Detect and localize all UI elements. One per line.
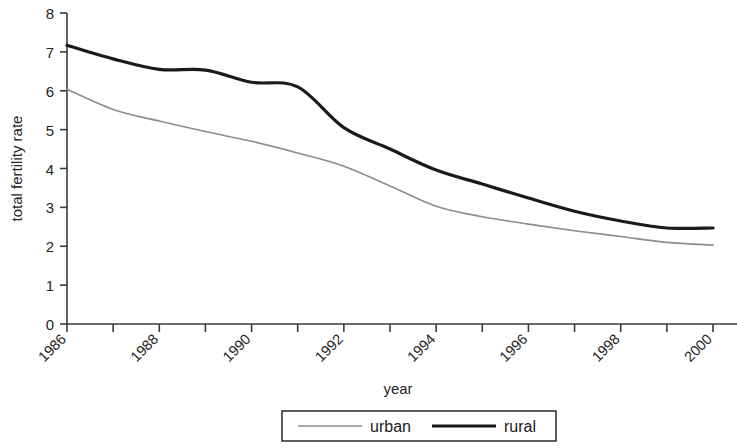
y-axis-tick-label: 0 [46,316,54,333]
legend: urbanrural [282,411,556,441]
x-axis-tick-label: 1990 [220,331,254,365]
axes-group: 0123456781986198819901992199419961998200… [8,5,737,397]
legend-label-urban: urban [370,418,411,435]
y-axis-tick-label: 1 [46,277,54,294]
x-axis-tick-label: 1988 [127,331,161,365]
y-axis-tick-label: 5 [46,122,54,139]
y-axis-tick-label: 4 [46,161,54,178]
x-axis-tick-label: 1992 [312,331,346,365]
series-group [67,45,713,245]
y-axis-tick-label: 7 [46,44,54,61]
x-axis-tick-label: 1998 [589,331,623,365]
x-axis-tick-label: 1996 [496,331,530,365]
y-axis-tick-label: 3 [46,199,54,216]
x-axis-tick-label: 1986 [35,331,69,365]
series-line-rural [67,45,713,228]
x-axis-tick-label: 2000 [681,331,715,365]
y-axis-tick-label: 8 [46,5,54,22]
fertility-rate-line-chart: 0123456781986198819901992199419961998200… [0,0,737,448]
chart-canvas: 0123456781986198819901992199419961998200… [0,0,737,448]
legend-label-rural: rural [504,418,536,435]
y-axis-tick-label: 6 [46,83,54,100]
y-axis-title: total fertility rate [8,116,25,222]
y-axis-tick-label: 2 [46,238,54,255]
x-axis-title: year [383,380,412,397]
x-axis-tick-label: 1994 [404,331,438,365]
